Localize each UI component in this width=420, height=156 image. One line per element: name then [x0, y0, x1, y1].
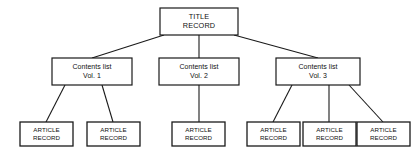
node-title-record-line2: RECORD [183, 21, 216, 30]
node-article-record-4-line2: RECORD [260, 134, 288, 141]
node-article-record-1-line2: RECORD [33, 134, 61, 141]
node-article-record-6-line1: ARTICLE [370, 126, 396, 133]
node-contents-list-vol-2[interactable]: Contents list Vol. 2 [159, 58, 239, 85]
node-contents-list-vol-1-line2: Vol. 1 [83, 72, 101, 79]
node-article-record-1-line1: ARTICLE [33, 126, 59, 133]
node-title-record-line1: TITLE [189, 12, 210, 21]
node-contents-list-vol-2-line2: Vol. 2 [190, 72, 208, 79]
node-article-record-2-line1: ARTICLE [100, 126, 126, 133]
node-article-record-1[interactable]: ARTICLE RECORD [20, 122, 73, 146]
node-contents-list-vol-2-line1: Contents list [179, 63, 218, 70]
node-title-record[interactable]: TITLE RECORD [160, 8, 238, 35]
connector-vol-3-to-article-4 [273, 85, 292, 122]
connector-root-to-vol-1 [92, 35, 164, 58]
node-article-record-2-line2: RECORD [100, 134, 128, 141]
connector-vol-1-to-article-2 [102, 85, 113, 122]
node-article-record-3[interactable]: ARTICLE RECORD [172, 122, 225, 146]
node-contents-list-vol-3-line2: Vol. 3 [309, 72, 327, 79]
node-contents-list-vol-3[interactable]: Contents list Vol. 3 [276, 58, 360, 85]
connector-vol-3-to-article-6 [349, 85, 383, 122]
node-contents-list-vol-3-line1: Contents list [298, 63, 337, 70]
node-article-record-3-line1: ARTICLE [185, 126, 211, 133]
node-contents-list-vol-1-line1: Contents list [72, 63, 111, 70]
node-article-record-5-line2: RECORD [316, 134, 344, 141]
node-article-record-2[interactable]: ARTICLE RECORD [87, 122, 140, 146]
node-article-record-6[interactable]: ARTICLE RECORD [357, 122, 410, 146]
connector-root-to-vol-3 [234, 35, 318, 58]
connector-vol-1-to-article-1 [46, 85, 65, 122]
node-article-record-5[interactable]: ARTICLE RECORD [303, 122, 356, 146]
diagram-container: TITLE RECORD Contents list Vol. 1 Conten… [0, 0, 420, 156]
node-article-record-4-line1: ARTICLE [260, 126, 286, 133]
node-article-record-6-line2: RECORD [370, 134, 398, 141]
node-article-record-3-line2: RECORD [185, 134, 213, 141]
record-hierarchy-diagram: TITLE RECORD Contents list Vol. 1 Conten… [0, 0, 420, 156]
node-article-record-4[interactable]: ARTICLE RECORD [247, 122, 300, 146]
node-article-record-5-line1: ARTICLE [316, 126, 342, 133]
node-contents-list-vol-1[interactable]: Contents list Vol. 1 [52, 58, 132, 85]
